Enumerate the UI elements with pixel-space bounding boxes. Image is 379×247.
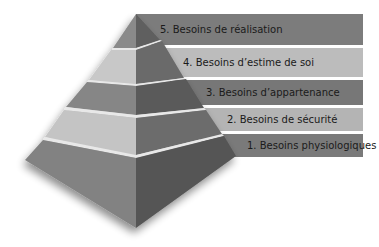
pyramid-level-5-left — [113, 14, 136, 48]
pyramid-level-4-left — [89, 50, 136, 84]
label-level-2: 2. Besoins de sécurité — [227, 114, 337, 125]
label-level-4: 4. Besoins d’estime de soi — [183, 57, 314, 68]
label-level-5: 5. Besoins de réalisation — [160, 24, 282, 35]
pyramid — [25, 14, 236, 228]
pyramid-diagram: 5. Besoins de réalisation 4. Besoins d’e… — [0, 0, 379, 247]
label-level-3: 3. Besoins d’appartenance — [206, 87, 340, 98]
label-level-1: 1. Besoins physiologiques — [247, 140, 376, 151]
